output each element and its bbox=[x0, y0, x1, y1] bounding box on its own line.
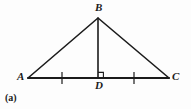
segment-AB bbox=[28, 18, 98, 78]
vertex-label-A: A bbox=[17, 71, 24, 82]
geometry-figure: A B C D (a) bbox=[0, 0, 191, 109]
right-angle-marker-icon bbox=[98, 72, 103, 77]
triangle-sides bbox=[28, 18, 169, 78]
vertex-label-B: B bbox=[95, 2, 102, 13]
geometry-diagram bbox=[0, 0, 191, 109]
figure-caption: (a) bbox=[5, 92, 17, 103]
vertex-label-C: C bbox=[172, 71, 179, 82]
vertex-label-D: D bbox=[95, 80, 103, 91]
segment-BC bbox=[98, 18, 169, 78]
